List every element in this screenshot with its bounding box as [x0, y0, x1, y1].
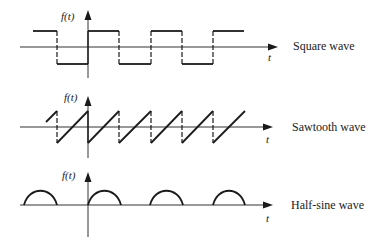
- halfsine-arch: [24, 191, 57, 205]
- sawtooth-t-axis-arrow-icon: [263, 124, 273, 131]
- sawtooth-wave-title: Sawtooth wave: [292, 120, 366, 134]
- square-f-axis-arrow-icon: [85, 10, 92, 20]
- halfsine-arch: [88, 191, 121, 205]
- waveform-diagram: f(t) t Square wave f(t) t: [0, 0, 383, 249]
- square-wave-panel: f(t) t Square wave: [20, 10, 355, 78]
- sawtooth-t-axis-label: t: [266, 133, 270, 145]
- halfsine-wave-title: Half-sine wave: [291, 198, 364, 212]
- sawtooth-f-axis-label: f(t): [64, 91, 78, 104]
- halfsine-t-axis-label: t: [266, 212, 270, 224]
- halfsine-arch: [213, 191, 245, 205]
- sawtooth-wave-panel: f(t) t Sawtooth wave: [20, 91, 366, 158]
- half-sine-wave-panel: f(t) t Half-sine wave: [20, 169, 364, 237]
- halfsine-arch: [150, 191, 183, 205]
- square-f-axis-label: f(t): [61, 10, 75, 23]
- square-t-axis-arrow-icon: [268, 44, 278, 51]
- halfsine-t-axis-arrow-icon: [263, 202, 273, 209]
- halfsine-f-axis-label: f(t): [62, 169, 76, 182]
- square-wave-title: Square wave: [293, 39, 355, 53]
- square-t-axis-label: t: [268, 51, 272, 63]
- sawtooth-f-axis-arrow-icon: [85, 96, 92, 106]
- sawtooth-ramp: [46, 111, 57, 122]
- halfsine-f-axis-arrow-icon: [85, 172, 92, 182]
